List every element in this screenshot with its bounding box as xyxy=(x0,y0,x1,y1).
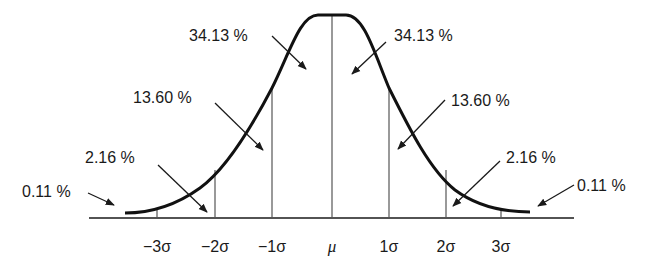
label-left-2: 2.16 % xyxy=(85,149,135,166)
label-right-1: 13.60 % xyxy=(451,92,510,109)
tick-minus-1-sigma: −1σ xyxy=(258,238,286,255)
label-right-2: 2.16 % xyxy=(506,149,556,166)
arrow-left-tail xyxy=(88,193,114,205)
tick-mean: μ xyxy=(327,237,337,256)
label-right-center: 34.13 % xyxy=(394,27,453,44)
tick-minus-3-sigma: −3σ xyxy=(143,238,171,255)
label-left-center: 34.13 % xyxy=(189,27,248,44)
label-left-1: 13.60 % xyxy=(133,89,192,106)
tick-plus-1-sigma: 1σ xyxy=(380,238,399,255)
bell-curve xyxy=(125,15,530,213)
tick-minus-2-sigma: −2σ xyxy=(201,238,229,255)
tick-plus-2-sigma: 2σ xyxy=(437,238,456,255)
normal-distribution-diagram: 0.11 % 2.16 % 13.60 % 34.13 % 34.13 % 13… xyxy=(0,0,663,274)
label-right-tail: 0.11 % xyxy=(577,177,626,194)
arrow-left-center xyxy=(272,36,306,69)
label-left-tail: 0.11 % xyxy=(22,183,71,200)
tick-plus-3-sigma: 3σ xyxy=(492,238,511,255)
arrow-right-tail xyxy=(538,185,574,206)
arrow-right-2 xyxy=(453,161,500,206)
arrow-right-1 xyxy=(398,100,445,149)
